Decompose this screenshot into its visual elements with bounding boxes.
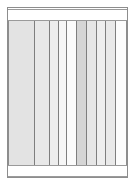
slat-divider-9 xyxy=(115,21,116,165)
slat-divider-2 xyxy=(49,21,50,165)
slat-3 xyxy=(49,21,58,165)
slat-8 xyxy=(96,21,105,165)
drawing-canvas xyxy=(0,0,135,185)
slat-1 xyxy=(9,21,34,165)
slat-divider-3 xyxy=(58,21,59,165)
bottom-rail xyxy=(8,165,127,177)
slat-panel-block xyxy=(8,21,127,165)
slat-divider-4 xyxy=(66,21,67,165)
slat-divider-6 xyxy=(86,21,87,165)
slat-divider-7 xyxy=(96,21,97,165)
slat-6 xyxy=(76,21,86,165)
slat-2 xyxy=(34,21,49,165)
slat-10 xyxy=(115,21,127,165)
slat-5 xyxy=(66,21,76,165)
slat-divider-1 xyxy=(34,21,35,165)
slat-9 xyxy=(105,21,115,165)
slat-4 xyxy=(58,21,66,165)
slat-divider-8 xyxy=(105,21,106,165)
top-rail xyxy=(8,9,127,21)
slat-7 xyxy=(86,21,96,165)
slat-divider-5 xyxy=(76,21,77,165)
